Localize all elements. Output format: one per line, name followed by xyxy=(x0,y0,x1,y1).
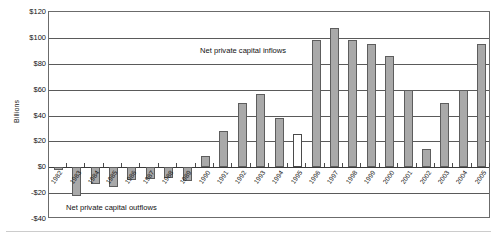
bar xyxy=(201,156,210,168)
y-tick-label: $80 xyxy=(0,58,46,67)
y-tick-label: -$20 xyxy=(0,188,46,197)
bar xyxy=(404,90,413,168)
annotation-outflows: Net private capital outflows xyxy=(66,203,157,212)
x-tick-mark xyxy=(195,163,196,167)
x-tick-mark xyxy=(121,163,122,167)
x-tick-mark xyxy=(287,163,288,167)
x-tick-mark xyxy=(360,163,361,167)
y-tick-label: $0 xyxy=(0,162,46,171)
x-tick-mark xyxy=(324,163,325,167)
x-tick-mark xyxy=(305,163,306,167)
gridline xyxy=(49,38,489,39)
x-tick-mark xyxy=(84,163,85,167)
bar xyxy=(219,131,228,167)
x-tick-mark xyxy=(471,163,472,167)
bar xyxy=(256,94,265,168)
gridline xyxy=(49,64,489,65)
annotation-inflows: Net private capital inflows xyxy=(200,46,286,55)
bar xyxy=(440,103,449,168)
bar xyxy=(238,103,247,168)
x-tick-mark xyxy=(268,163,269,167)
gridline xyxy=(49,141,489,142)
x-tick-mark xyxy=(231,163,232,167)
x-tick-mark xyxy=(176,163,177,167)
y-tick-label: $120 xyxy=(0,7,46,16)
x-tick-mark xyxy=(139,163,140,167)
gridline xyxy=(49,193,489,194)
x-tick-mark xyxy=(489,163,490,167)
x-tick-mark xyxy=(434,163,435,167)
y-axis-tick-labels: $120$100$80$60$40$20$0-$20-$40 xyxy=(0,0,46,237)
y-tick-label: $60 xyxy=(0,84,46,93)
x-tick-mark xyxy=(66,163,67,167)
x-tick-mark xyxy=(250,163,251,167)
bottom-divider xyxy=(6,231,491,232)
bar xyxy=(312,40,321,167)
bar xyxy=(477,44,486,167)
x-tick-mark xyxy=(452,163,453,167)
bar xyxy=(367,44,376,167)
x-tick-mark xyxy=(416,163,417,167)
x-tick-mark xyxy=(213,163,214,167)
x-tick-mark xyxy=(158,163,159,167)
x-tick-mark xyxy=(103,163,104,167)
bar xyxy=(459,90,468,168)
bar xyxy=(293,134,302,168)
bar xyxy=(422,149,431,167)
bar xyxy=(348,40,357,167)
plot-area xyxy=(48,11,490,218)
x-tick-mark xyxy=(342,163,343,167)
y-tick-label: $100 xyxy=(0,32,46,41)
bar xyxy=(385,56,394,167)
bar xyxy=(330,28,339,168)
x-tick-mark xyxy=(379,163,380,167)
x-tick-mark xyxy=(397,163,398,167)
capital-flows-bar-chart: Billions $120$100$80$60$40$20$0-$20-$40 … xyxy=(0,0,497,237)
y-tick-label: -$40 xyxy=(0,214,46,223)
gridline xyxy=(49,116,489,117)
bar xyxy=(275,118,284,167)
y-tick-label: $40 xyxy=(0,110,46,119)
gridline xyxy=(49,90,489,91)
y-tick-label: $20 xyxy=(0,136,46,145)
